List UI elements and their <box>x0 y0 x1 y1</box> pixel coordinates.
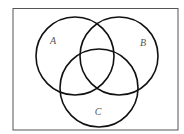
set-b-circle <box>80 17 158 95</box>
set-a-circle <box>36 17 114 95</box>
set-c-label: C <box>95 106 102 117</box>
venn-diagram: A B C <box>0 0 184 134</box>
set-a-label: A <box>49 35 57 46</box>
set-b-label: B <box>140 37 146 48</box>
